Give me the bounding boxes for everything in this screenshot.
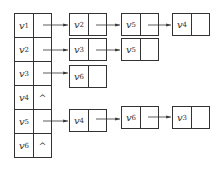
pointer-arrows xyxy=(0,0,223,169)
